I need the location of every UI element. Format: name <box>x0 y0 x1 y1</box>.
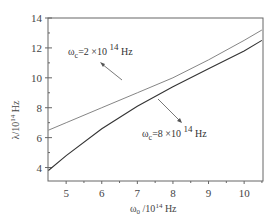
y-tick-label: 8 <box>37 102 43 114</box>
x-axis: 5678910 <box>63 181 262 199</box>
annotation-arrow-upper <box>102 64 122 80</box>
x-tick-label: 7 <box>135 187 141 199</box>
x-tick-label: 9 <box>206 187 212 199</box>
plot-frame <box>48 18 263 181</box>
y-tick-label: 12 <box>31 42 42 54</box>
y-tick-label: 10 <box>31 72 43 84</box>
y-axis-title: λ/1014 Hz <box>9 100 21 139</box>
annotation-arrow-lower <box>158 99 180 121</box>
y-tick-label: 14 <box>31 12 43 24</box>
chart: 468101214 5678910 ωc=2 ×10 14 Hz ωc=8 ×1… <box>0 0 273 224</box>
annotation-upper: ωc=2 ×10 14 Hz <box>68 42 133 60</box>
x-tick-label: 10 <box>239 187 251 199</box>
annotation-lower: ωc=8 ×10 14 Hz <box>142 124 207 142</box>
x-tick-label: 5 <box>63 187 69 199</box>
x-axis-title: ω0 /1014 Hz <box>130 202 177 216</box>
x-tick-label: 6 <box>99 187 105 199</box>
y-axis: 468101214 <box>31 12 52 174</box>
y-tick-label: 4 <box>37 162 43 174</box>
series-line <box>48 40 262 170</box>
x-tick-label: 8 <box>170 187 176 199</box>
y-tick-label: 6 <box>37 132 43 144</box>
